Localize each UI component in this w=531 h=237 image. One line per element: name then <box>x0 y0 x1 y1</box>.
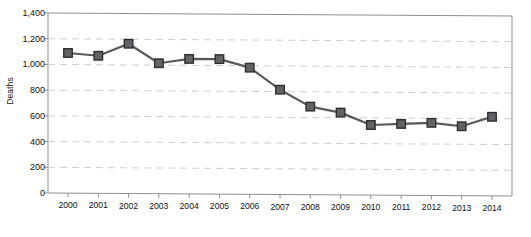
x-tick-label: 2005 <box>210 201 229 211</box>
x-tick-label: 2010 <box>361 202 380 212</box>
x-tick-label: 2014 <box>482 203 501 213</box>
x-tick-label: 2001 <box>89 200 108 210</box>
x-tick-label: 2000 <box>58 200 77 210</box>
x-tick-label: 2008 <box>301 202 320 212</box>
x-tick-label: 2012 <box>422 202 441 212</box>
x-tick-label: 2004 <box>180 201 199 211</box>
x-tick-label: 2003 <box>149 201 168 211</box>
x-tick-label: 2009 <box>331 202 350 212</box>
x-tick-label: 2013 <box>452 203 471 213</box>
x-tick-label: 2002 <box>119 201 138 211</box>
chart-figure: Deaths 02004006008001,0001,2001,400 2000… <box>0 0 531 237</box>
x-tick-label: 2006 <box>240 201 259 211</box>
x-tick-label: 2011 <box>392 202 410 212</box>
page-edge-artifact <box>516 172 526 198</box>
x-axis-tick-labels: 2000200120022003200420052006200720082009… <box>0 0 531 237</box>
x-tick-label: 2007 <box>270 202 289 212</box>
